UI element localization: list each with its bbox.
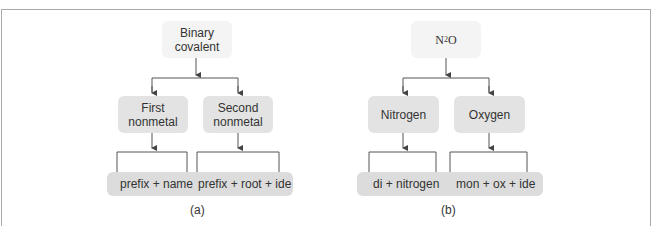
- first-nonmetal-line1: First: [128, 101, 177, 115]
- formula-n: N: [435, 33, 444, 47]
- nitrogen-box: Nitrogen: [368, 96, 439, 133]
- prefix-name-label: prefix + name: [120, 177, 193, 191]
- oxygen-box: Oxygen: [454, 96, 525, 133]
- caption-a: (a): [190, 203, 205, 217]
- root-label-line2: covalent: [175, 40, 220, 54]
- di-nitrogen-label: di + nitrogen: [373, 177, 439, 191]
- nitrogen-label: Nitrogen: [381, 108, 426, 122]
- prefix-root-ide-label: prefix + root + ide: [198, 177, 291, 191]
- second-nonmetal-box: Second nonmetal: [203, 96, 273, 133]
- connector-lines: [0, 0, 654, 226]
- binary-covalent-box: Binary covalent: [162, 21, 232, 58]
- n2o-box: N2O: [411, 21, 481, 58]
- second-nonmetal-line1: Second: [213, 101, 262, 115]
- caption-b: (b): [441, 203, 456, 217]
- formula-o: O: [448, 33, 457, 47]
- mon-ox-ide-label: mon + ox + ide: [456, 177, 535, 191]
- second-nonmetal-line2: nonmetal: [213, 115, 262, 129]
- root-label-line1: Binary: [175, 26, 220, 40]
- first-nonmetal-box: First nonmetal: [118, 96, 188, 133]
- oxygen-label: Oxygen: [469, 108, 510, 122]
- first-nonmetal-line2: nonmetal: [128, 115, 177, 129]
